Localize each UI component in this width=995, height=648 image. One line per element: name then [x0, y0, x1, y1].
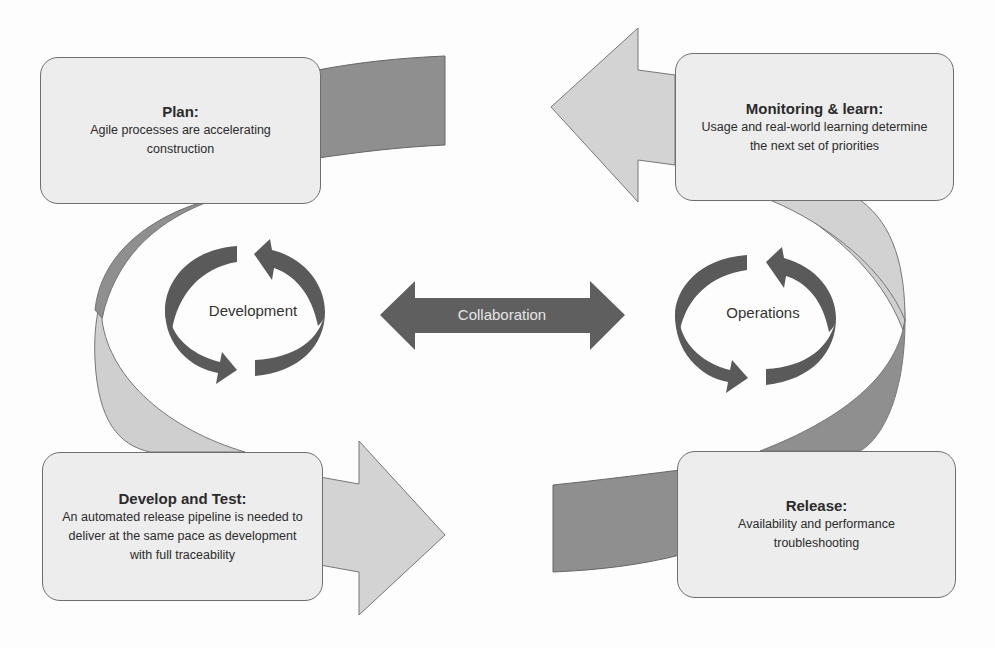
stage-description: Usage and real-world learning determine … — [695, 118, 935, 156]
collaboration-label: Collaboration — [458, 306, 546, 323]
stage-title: Monitoring & learn: — [746, 99, 884, 118]
ops-cycle-lower-arc — [766, 318, 836, 385]
cycle-label-development: Development — [209, 302, 297, 319]
bottom-dark-band — [553, 470, 680, 572]
stage-description: Availability and performance troubleshoo… — [717, 515, 917, 553]
dev-cycle-lower-arc — [255, 312, 325, 376]
stage-box-plan: Plan: Agile processes are accelerating c… — [40, 57, 321, 204]
bottom-light-arrow — [320, 441, 445, 615]
stage-title: Develop and Test: — [118, 489, 246, 508]
cycle-label-operations: Operations — [726, 304, 799, 321]
stage-description: An automated release pipeline is needed … — [58, 508, 308, 565]
stage-box-monitoring: Monitoring & learn: Usage and real-world… — [675, 53, 954, 201]
stage-description: Agile processes are accelerating constru… — [68, 121, 293, 159]
stage-box-release: Release: Availability and performance tr… — [677, 451, 956, 598]
dev-cycle-bottom-arrow — [165, 310, 237, 384]
stage-title: Plan: — [162, 102, 199, 121]
devops-diagram: ​ — [0, 0, 995, 648]
stage-title: Release: — [786, 496, 848, 515]
top-light-arrow — [551, 28, 675, 202]
stage-box-develop-test: Develop and Test: An automated release p… — [42, 452, 323, 601]
ops-cycle-bottom-arrow — [675, 315, 748, 393]
left-arc-dark-band — [95, 203, 205, 318]
right-arc-dark-band — [760, 320, 905, 451]
top-dark-band — [318, 56, 445, 158]
